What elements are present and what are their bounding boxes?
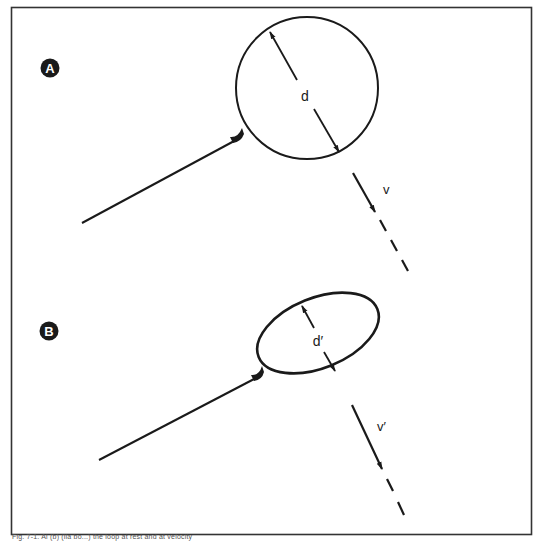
panel-a-diameter-label: d — [301, 88, 309, 104]
panel-b-badge-label: B — [44, 324, 53, 339]
panel-a-diameter-arrow-lower — [314, 109, 339, 152]
panel-a-handle-joint — [230, 128, 244, 143]
figure-canvas: A d v B d′ — [0, 0, 548, 541]
panel-a-velocity-arrow — [353, 173, 375, 212]
panel-b-velocity-label: v′ — [377, 419, 387, 434]
panel-a-velocity-dash-1 — [380, 220, 386, 231]
panel-b: B d′ v′ — [40, 277, 405, 515]
panel-b-badge: B — [40, 322, 59, 341]
figure-caption: Fig. 7-1. Ai (b) (lla bo...) the loop at… — [12, 533, 192, 540]
panel-a-badge: A — [41, 59, 60, 78]
panel-b-diameter-label: d′ — [313, 333, 324, 349]
panel-b-velocity-dash-1 — [387, 479, 393, 491]
panel-a-handle — [82, 140, 236, 223]
figure-frame — [12, 8, 532, 535]
panel-a-badge-label: A — [45, 61, 55, 76]
panel-b-velocity-arrow — [352, 405, 382, 469]
panel-a: A d v — [41, 17, 409, 271]
panel-a-velocity-label: v — [383, 182, 390, 197]
panel-b-diameter-arrow-upper — [302, 306, 314, 328]
panel-b-handle — [99, 378, 256, 460]
panel-a-velocity-dash-2 — [391, 240, 397, 251]
panel-a-diameter-arrow-upper — [270, 32, 297, 80]
panel-a-velocity-dash-3 — [402, 260, 408, 271]
panel-b-handle-joint — [251, 366, 264, 381]
panel-b-velocity-dash-2 — [398, 502, 404, 515]
